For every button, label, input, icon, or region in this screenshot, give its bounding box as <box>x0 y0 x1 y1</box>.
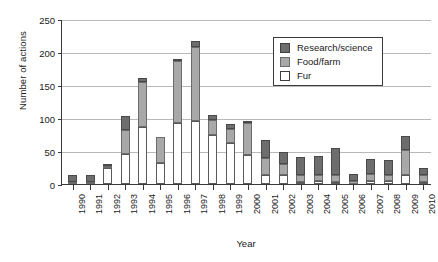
bar-group-2008[interactable] <box>384 20 393 184</box>
x-tick-label: 2008 <box>392 194 402 214</box>
segment-fur <box>191 121 200 184</box>
segment-food <box>68 182 77 184</box>
x-tick-label: 1995 <box>164 194 174 214</box>
segment-fur <box>156 163 165 184</box>
segment-research <box>419 168 428 175</box>
legend-item-research: Research/science <box>280 42 373 53</box>
legend-label-food: Food/farm <box>297 56 340 67</box>
segment-fur <box>208 135 217 185</box>
x-tick-label: 2000 <box>252 194 262 214</box>
segment-research <box>401 136 410 150</box>
x-tick-label: 2007 <box>375 194 385 214</box>
x-tick-mark <box>90 185 91 190</box>
y-axis-title: Number of actions <box>17 5 28 137</box>
segment-fur <box>261 175 270 184</box>
legend-label-research: Research/science <box>297 42 373 53</box>
segment-fur <box>384 181 393 184</box>
segment-fur <box>366 181 375 184</box>
x-tick-mark <box>266 185 267 190</box>
segment-food <box>138 82 147 127</box>
bar-group-1994[interactable] <box>138 20 147 184</box>
x-tick-label: 2009 <box>410 194 420 214</box>
segment-food <box>349 181 358 184</box>
bar-group-2009[interactable] <box>401 20 410 184</box>
bar-group-2001[interactable] <box>261 20 270 184</box>
segment-research <box>331 148 340 174</box>
segment-food <box>226 129 235 144</box>
legend-label-fur: Fur <box>297 70 311 81</box>
x-tick-mark <box>423 185 424 190</box>
x-tick-mark <box>388 185 389 190</box>
segment-fur <box>173 123 182 184</box>
y-tick-label: 0 <box>50 180 55 191</box>
segment-food <box>243 123 252 155</box>
bar-group-1991[interactable] <box>86 20 95 184</box>
y-tick-label: 100 <box>39 114 55 125</box>
segment-food <box>296 175 305 182</box>
medium-gray-swatch-icon <box>280 57 290 67</box>
segment-fur <box>121 154 130 184</box>
x-tick-label: 1999 <box>234 194 244 214</box>
x-tick-mark <box>248 185 249 190</box>
bar-group-1993[interactable] <box>121 20 130 184</box>
segment-food <box>121 130 130 154</box>
segment-fur <box>331 182 340 184</box>
bar-group-1995[interactable] <box>156 20 165 184</box>
bar-group-1999[interactable] <box>226 20 235 184</box>
plot-area: 050100150200250 Research/science Food/fa… <box>61 20 431 185</box>
segment-food <box>191 47 200 122</box>
segment-research <box>296 157 305 175</box>
x-tick-label: 2005 <box>340 194 350 214</box>
bar-group-1996[interactable] <box>173 20 182 184</box>
segment-food <box>86 182 95 184</box>
x-tick-label: 1992 <box>112 194 122 214</box>
bar-group-1998[interactable] <box>208 20 217 184</box>
segment-research <box>68 175 77 182</box>
y-tick-label: 150 <box>39 81 55 92</box>
bar-group-2000[interactable] <box>243 20 252 184</box>
bar-group-1990[interactable] <box>68 20 77 184</box>
x-tick-label: 1996 <box>182 194 192 214</box>
segment-fur <box>243 155 252 184</box>
x-tick-label: 2001 <box>270 194 280 214</box>
x-tick-label: 1990 <box>77 194 87 214</box>
segment-research <box>366 159 375 174</box>
segment-food <box>419 175 428 182</box>
x-tick-mark <box>336 185 337 190</box>
segment-research <box>314 156 323 174</box>
dark-gray-swatch-icon <box>280 43 290 53</box>
x-tick-label: 2002 <box>287 194 297 214</box>
y-tick-label: 50 <box>44 147 55 158</box>
x-tick-label: 1994 <box>147 194 157 214</box>
legend: Research/science Food/farm Fur <box>273 37 383 86</box>
segment-fur <box>296 182 305 184</box>
segment-food <box>208 120 217 135</box>
segment-research <box>121 116 130 130</box>
segment-fur <box>138 127 147 184</box>
x-tick-label: 1997 <box>199 194 209 214</box>
segment-fur <box>314 181 323 184</box>
legend-item-food: Food/farm <box>280 56 373 67</box>
x-tick-mark <box>406 185 407 190</box>
chart-figure: Number of actions 050100150200250 Resear… <box>0 0 438 262</box>
bar-group-1992[interactable] <box>103 20 112 184</box>
segment-research <box>261 140 270 158</box>
segment-food <box>173 61 182 122</box>
x-tick-mark <box>318 185 319 190</box>
segment-research <box>349 174 358 181</box>
segment-food <box>156 137 165 163</box>
x-tick-mark <box>371 185 372 190</box>
legend-item-fur: Fur <box>280 70 373 81</box>
x-tick-mark <box>301 185 302 190</box>
x-tick-mark <box>230 185 231 190</box>
segment-research <box>279 152 288 164</box>
x-tick-mark <box>143 185 144 190</box>
y-tick-label: 200 <box>39 48 55 59</box>
bar-group-2010[interactable] <box>419 20 428 184</box>
x-tick-mark <box>108 185 109 190</box>
x-axis-ticks: 1990199119921993199419951996199719981999… <box>61 185 431 191</box>
bar-group-1997[interactable] <box>191 20 200 184</box>
segment-research <box>384 160 393 175</box>
x-tick-mark <box>283 185 284 190</box>
x-tick-label: 2010 <box>427 194 437 214</box>
